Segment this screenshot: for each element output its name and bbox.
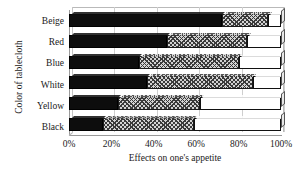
bar-segment[interactable] (194, 118, 281, 131)
x-tick-label: 100% (270, 139, 292, 149)
bar-segment[interactable] (69, 35, 167, 48)
bar-segment[interactable] (200, 97, 281, 110)
bar-segment[interactable] (239, 56, 281, 69)
bar-row[interactable] (69, 14, 281, 27)
bar-segment[interactable] (118, 97, 201, 110)
bar-segment[interactable] (247, 35, 281, 48)
bar-segment[interactable] (69, 14, 222, 27)
bar-row[interactable] (69, 97, 281, 110)
x-tick-label: 20% (103, 139, 120, 149)
bar-segment[interactable] (69, 76, 147, 89)
bar-segment[interactable] (253, 76, 281, 89)
bar-segment[interactable] (139, 56, 239, 69)
y-tick-label: Blue (12, 55, 67, 71)
bar-segment[interactable] (222, 14, 269, 27)
bar-end-cap (281, 49, 285, 65)
y-tick-label: Black (12, 119, 67, 135)
bar-row[interactable] (69, 76, 281, 89)
x-axis-tick-labels: 0%20%40%60%80%100% (69, 139, 281, 153)
y-axis-tick-labels: Beige Red Blue White Yellow Black (12, 13, 67, 135)
x-axis-line (69, 135, 282, 136)
bar-row[interactable] (69, 118, 281, 131)
plot-area (69, 10, 281, 138)
bar-row[interactable] (69, 56, 281, 69)
bar-series-group (69, 10, 281, 135)
bar-segment[interactable] (268, 14, 281, 27)
y-tick-label: White (12, 77, 67, 93)
bar-row[interactable] (69, 35, 281, 48)
bar-segment[interactable] (103, 118, 194, 131)
bar-segment[interactable] (147, 76, 253, 89)
y-tick-label: Yellow (12, 98, 67, 114)
y-tick-label: Beige (12, 13, 67, 29)
x-axis-title: Effects on one's appetite (69, 153, 281, 163)
x-tick-label: 0% (63, 139, 76, 149)
bar-segment[interactable] (167, 35, 248, 48)
x-tick-label: 40% (145, 139, 162, 149)
x-tick-label: 60% (187, 139, 204, 149)
bar-segment[interactable] (69, 97, 118, 110)
bar-segment[interactable] (69, 56, 139, 69)
stacked-bar-chart: Color of tablecloth Beige Red Blue White… (0, 0, 305, 184)
y-tick-label: Red (12, 34, 67, 50)
bar-segment[interactable] (69, 118, 103, 131)
x-tick-label: 80% (230, 139, 247, 149)
